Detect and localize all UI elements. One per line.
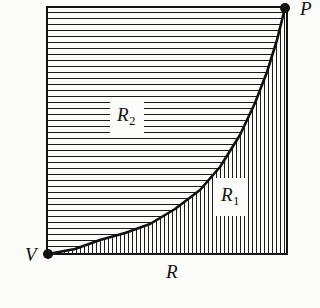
region-label-r2-sub: 2 <box>129 113 135 128</box>
vertex-dot-p <box>280 3 290 13</box>
vertex-dot-v <box>43 249 53 259</box>
axis-label-r: R <box>166 262 178 281</box>
vertex-label-v: V <box>25 245 37 264</box>
region-label-r1-base: R <box>221 184 233 205</box>
region-label-r2-base: R <box>117 104 129 125</box>
vertex-label-p: P <box>300 0 312 18</box>
diagram-canvas <box>0 0 320 308</box>
region-label-r1-sub: 1 <box>233 193 239 208</box>
region-diagram-figure: P V R R1 R2 <box>0 0 320 308</box>
region-label-r2: R2 <box>110 98 144 136</box>
region-label-r1: R1 <box>214 178 248 216</box>
